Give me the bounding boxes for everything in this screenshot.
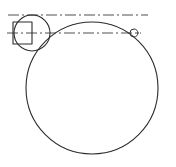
geometric-drawing — [0, 0, 176, 167]
figure-canvas — [0, 0, 176, 167]
